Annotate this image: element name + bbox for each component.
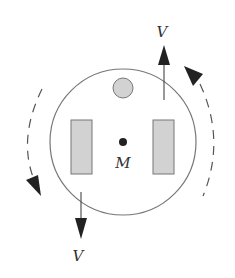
rotation-arc-left bbox=[26, 89, 42, 196]
velocity-label-bottom: V bbox=[73, 247, 86, 265]
velocity-label-top: V bbox=[157, 23, 170, 41]
arrowhead-down-icon bbox=[75, 218, 87, 239]
center-dot bbox=[119, 138, 127, 146]
left-rectangle bbox=[71, 120, 92, 174]
rotating-body-diagram: M V V bbox=[0, 0, 235, 278]
right-rectangle bbox=[153, 120, 174, 174]
velocity-arrow-top bbox=[158, 45, 170, 100]
small-circle bbox=[113, 78, 133, 98]
rotation-arc-right bbox=[184, 66, 214, 196]
rotation-arrowhead-left-icon bbox=[26, 175, 41, 196]
arrowhead-up-icon bbox=[158, 45, 170, 65]
rotation-arrowhead-right-icon bbox=[184, 66, 203, 86]
center-label: M bbox=[114, 154, 131, 172]
